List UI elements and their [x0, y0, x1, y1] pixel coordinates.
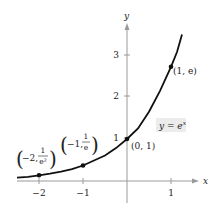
- x-tick-label: 1: [168, 188, 174, 198]
- label-0: (0, 1): [131, 141, 155, 151]
- y-axis-label: y: [123, 11, 130, 21]
- x-axis-label: x: [203, 176, 208, 186]
- axes: [17, 26, 196, 203]
- svg-text:): ): [49, 147, 57, 171]
- svg-text:): ): [91, 133, 99, 157]
- y-tick-label: 1: [113, 133, 119, 143]
- label-neg1: ( −1, 1 e ): [60, 132, 99, 157]
- x-tick-label: −2: [32, 188, 45, 198]
- data-points: [37, 65, 174, 178]
- svg-text:1: 1: [41, 146, 46, 155]
- ticks: [39, 55, 171, 184]
- x-tick-label: −1: [76, 188, 89, 198]
- y-tick-label: 2: [113, 91, 119, 101]
- point-neg2: [37, 173, 42, 178]
- x-axis-arrow-icon: [192, 179, 199, 184]
- svg-text:−2,: −2,: [22, 153, 38, 163]
- svg-text:1: 1: [84, 132, 89, 141]
- label-1: (1, e): [173, 66, 197, 76]
- equation-label: y = ex: [158, 119, 187, 131]
- point-neg1: [81, 163, 86, 168]
- label-neg2: ( −2, 1 e² ): [16, 146, 57, 171]
- y-axis-arrow-icon: [125, 23, 130, 30]
- y-tick-label: 3: [113, 50, 119, 60]
- point-0: [125, 137, 130, 142]
- svg-text:e²: e²: [39, 157, 46, 166]
- svg-text:−1,: −1,: [67, 139, 83, 149]
- exponential-graph: −2 −1 1 1 2 3 x y ( −2, 1 e² ) ( −1, 1 e…: [0, 0, 221, 210]
- svg-text:e: e: [84, 143, 89, 152]
